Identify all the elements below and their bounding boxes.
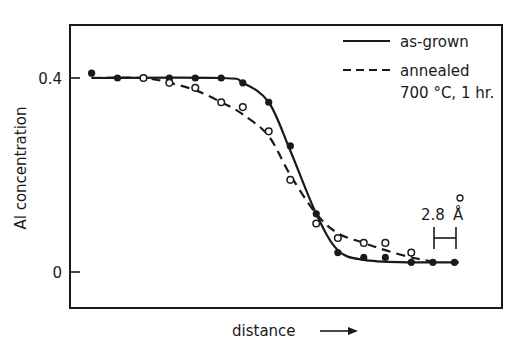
- legend-label-annealed-cond: 700 °C, 1 hr.: [400, 84, 494, 102]
- filled-point: [218, 74, 225, 81]
- scale-bar: 2.8 Å: [421, 205, 464, 249]
- open-point: [218, 99, 225, 106]
- as-grown-curve: [92, 78, 459, 263]
- scale-bar-unit: Å: [453, 205, 464, 224]
- ytick-label-bottom: 0: [52, 264, 62, 282]
- annealed-curve: [92, 78, 438, 263]
- scale-bar-value: 2.8: [421, 206, 445, 224]
- filled-point: [114, 74, 121, 81]
- legend-label-as-grown: as-grown: [400, 33, 469, 51]
- filled-point: [408, 259, 415, 266]
- filled-point: [313, 210, 320, 217]
- annealed-points: [140, 75, 414, 256]
- filled-point: [334, 249, 341, 256]
- open-point: [335, 235, 342, 242]
- chart: 0.4 0 Al concentration distance as-grown…: [0, 0, 519, 353]
- y-axis-label: Al concentration: [12, 106, 30, 229]
- angstrom-ring: [457, 195, 463, 201]
- open-point: [240, 104, 247, 111]
- open-point: [360, 240, 367, 247]
- open-point: [140, 75, 147, 82]
- filled-point: [88, 70, 95, 77]
- open-point: [166, 80, 173, 87]
- filled-point: [192, 74, 199, 81]
- x-axis-label: distance: [232, 322, 296, 340]
- arrow-right-icon: [320, 327, 358, 335]
- open-point: [382, 240, 389, 247]
- filled-point: [382, 254, 389, 261]
- open-point: [192, 84, 199, 91]
- legend: as-grown annealed 700 °C, 1 hr.: [343, 33, 494, 102]
- open-point: [313, 220, 320, 227]
- filled-point: [239, 79, 246, 86]
- open-point: [265, 128, 272, 135]
- filled-point: [360, 254, 367, 261]
- filled-point: [429, 259, 436, 266]
- filled-point: [451, 259, 458, 266]
- ytick-label-top: 0.4: [38, 70, 62, 88]
- filled-point: [287, 142, 294, 149]
- open-point: [287, 177, 294, 184]
- filled-point: [265, 99, 272, 106]
- open-point: [408, 249, 415, 256]
- legend-label-annealed: annealed: [400, 62, 470, 80]
